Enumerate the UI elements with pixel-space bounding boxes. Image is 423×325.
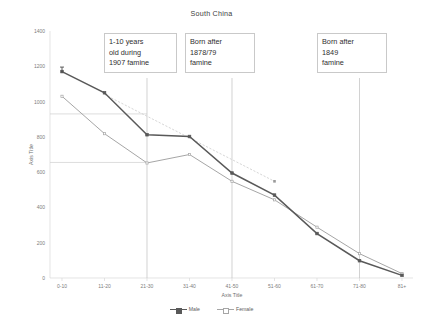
data-point-marker-female[interactable]	[231, 180, 233, 182]
annotation-line: 1-10 years	[109, 37, 172, 48]
data-point-marker-male[interactable]	[358, 259, 361, 262]
x-axis-tick-label: 41-50	[226, 283, 239, 289]
y-axis-tick-label: 1000	[34, 99, 45, 105]
annotation-box-famine-1907: 1-10 years old during 1907 famine	[104, 33, 177, 73]
y-axis-tick-label: 1400	[34, 28, 45, 34]
legend-swatch-female-icon	[217, 309, 234, 310]
data-point-marker-male[interactable]	[401, 274, 404, 277]
x-axis-tick-label: 11-20	[98, 283, 111, 289]
data-point-marker-female[interactable]	[316, 226, 318, 228]
legend-label-female: Female	[236, 306, 253, 312]
x-axis-tick-label: 61-70	[311, 283, 324, 289]
y-axis-tick-label: 600	[37, 169, 46, 175]
annotation-line: 1878/79	[190, 48, 250, 59]
x-axis-title: Axis Title	[222, 292, 243, 298]
legend-item-female[interactable]: Female	[217, 306, 253, 312]
data-point-marker-female[interactable]	[273, 199, 275, 201]
y-axis-tick-label: 1200	[34, 63, 45, 69]
data-point-marker-male[interactable]	[231, 172, 234, 175]
data-point-marker-female[interactable]	[358, 253, 360, 255]
data-point-marker-male[interactable]	[146, 133, 149, 136]
chart-legend: Male Female	[0, 306, 423, 312]
annotation-line: Born after	[322, 37, 382, 48]
x-axis-tick-label: 51-60	[268, 283, 281, 289]
annotation-box-famine-1878-79: Born after 1878/79 famine	[185, 33, 255, 73]
annotation-line: old during	[109, 48, 172, 59]
y-axis-tick-label: 800	[37, 134, 46, 140]
data-point-marker-male[interactable]	[273, 194, 276, 197]
data-point-marker-male[interactable]	[316, 232, 319, 235]
data-point-marker-female[interactable]	[188, 153, 190, 155]
legend-item-male[interactable]: Male	[170, 306, 200, 312]
y-axis-tick-label: 0	[42, 275, 45, 281]
annotation-line: 1907 famine	[109, 58, 172, 69]
legend-swatch-male-icon	[170, 309, 187, 310]
data-point-marker-female[interactable]	[146, 162, 148, 164]
legend-label-male: Male	[189, 306, 200, 312]
y-axis-title: Axis Title	[28, 144, 34, 165]
data-point-marker-male[interactable]	[188, 135, 191, 138]
x-axis-tick-label: 21-30	[141, 283, 154, 289]
y-axis-tick-label: 200	[37, 240, 46, 246]
annotation-line: famine	[322, 58, 382, 69]
trend-line-endpoint-marker	[273, 180, 276, 183]
data-point-marker-female[interactable]	[61, 95, 63, 97]
annotation-line: Born after	[190, 37, 250, 48]
x-axis-tick-label: 0-10	[57, 283, 67, 289]
x-axis-tick-label: 31-40	[183, 283, 196, 289]
data-point-marker-male[interactable]	[103, 91, 106, 94]
annotation-line: famine	[190, 58, 250, 69]
annotation-box-famine-1849: Born after 1849 famine	[317, 33, 387, 73]
chart-container: South China 02004006008001000120014000-1…	[0, 0, 423, 325]
y-axis-tick-label: 400	[37, 204, 46, 210]
x-axis-tick-label: 81+	[398, 283, 407, 289]
data-point-marker-female[interactable]	[103, 133, 105, 135]
annotation-line: 1849	[322, 48, 382, 59]
x-axis-tick-label: 71-80	[353, 283, 366, 289]
